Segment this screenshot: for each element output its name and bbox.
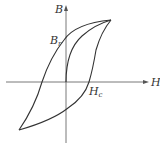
- h-axis-label: H: [151, 77, 160, 88]
- b-axis-arrow-icon: [64, 5, 68, 11]
- coercivity-symbol: H: [89, 85, 99, 98]
- h-axis-arrow-icon: [143, 80, 149, 84]
- hysteresis-diagram: [0, 0, 160, 150]
- remanence-symbol: B: [50, 34, 58, 47]
- coercivity-label: Hc: [89, 86, 103, 99]
- b-axis-label: B: [55, 4, 63, 15]
- coercivity-subscript: c: [99, 91, 103, 99]
- remanence-subscript: r: [58, 40, 61, 48]
- upper-branch-curve: [19, 20, 111, 130]
- lower-branch-curve: [19, 20, 111, 130]
- remanence-label: Br: [50, 35, 61, 48]
